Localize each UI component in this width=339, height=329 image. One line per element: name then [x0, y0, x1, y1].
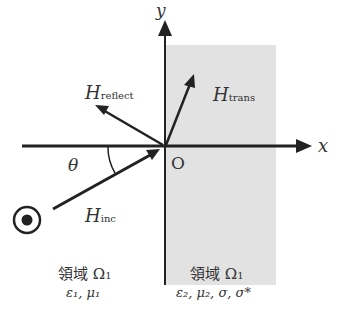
region-1-params: ε₁, μ₁ [66, 285, 100, 300]
y-axis-label: y [156, 0, 166, 20]
angle-label: θ [68, 155, 78, 175]
region-2-name: 領域 Ω1 [190, 262, 244, 283]
incident-vector-label: Hinc [85, 205, 116, 226]
origin-label: O [171, 153, 185, 173]
region-1-name: 領域 Ω1 [58, 262, 112, 283]
x-axis-label: x [318, 135, 328, 156]
x-axis-arrowhead [296, 139, 312, 153]
reflected-vector-label: Hreflect [85, 82, 134, 103]
region-2-params: ε₂, μ₂, σ, σ* [176, 285, 251, 300]
y-axis-arrowhead [158, 20, 172, 36]
diagram-canvas [0, 0, 339, 329]
angle-arc [108, 147, 115, 173]
out-of-plane-symbol-dot [22, 215, 33, 226]
transmitted-vector-label: Htrans [213, 84, 255, 105]
reflected-vector [103, 110, 163, 145]
